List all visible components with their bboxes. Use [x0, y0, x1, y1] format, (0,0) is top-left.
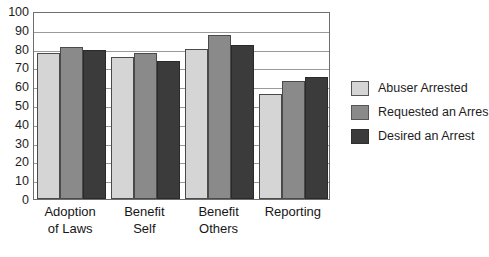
- bar-requested-an-arres-0: [60, 47, 83, 199]
- y-axis-tick-10: 10: [0, 175, 29, 187]
- y-axis-tick-30: 30: [0, 138, 29, 150]
- y-axis-tick-20: 20: [0, 156, 29, 168]
- bar-desired-an-arrest-2: [231, 45, 254, 199]
- bar-desired-an-arrest-0: [83, 50, 106, 199]
- bar-requested-an-arres-2: [208, 35, 231, 199]
- legend-item-2[interactable]: Desired an Arrest: [351, 127, 475, 146]
- bar-group-2: [185, 13, 254, 199]
- bar-group-0: [37, 13, 106, 199]
- x-axis-label-line: Reporting: [243, 203, 343, 220]
- bar-abuser-arrested-0: [37, 53, 60, 199]
- bar-abuser-arrested-1: [111, 57, 134, 199]
- bar-desired-an-arrest-1: [157, 61, 180, 199]
- legend-label-2: Desired an Arrest: [378, 129, 475, 144]
- bar-requested-an-arres-1: [134, 53, 157, 199]
- x-axis-label-line: Others: [169, 220, 269, 237]
- legend-label-1: Requested an Arres: [378, 105, 489, 120]
- bar-abuser-arrested-3: [259, 94, 282, 199]
- plot-area: [33, 12, 330, 200]
- y-axis-tick-50: 50: [0, 100, 29, 112]
- bar-abuser-arrested-2: [185, 49, 208, 199]
- bar-desired-an-arrest-3: [305, 77, 328, 199]
- y-axis-tick-60: 60: [0, 81, 29, 93]
- bar-requested-an-arres-3: [282, 81, 305, 199]
- legend-swatch-icon-2: [351, 129, 369, 144]
- y-axis-tick-80: 80: [0, 44, 29, 56]
- y-axis-tick-70: 70: [0, 62, 29, 74]
- y-axis-tick-90: 90: [0, 25, 29, 37]
- y-axis-tick-100: 100: [0, 6, 29, 18]
- legend-item-0[interactable]: Abuser Arrested: [351, 79, 468, 98]
- x-axis-label-3: Reporting: [243, 203, 343, 220]
- legend-swatch-icon-1: [351, 105, 369, 120]
- bar-group-1: [111, 13, 180, 199]
- bar-group-3: [259, 13, 328, 199]
- x-axis-category-labels: Adoptionof LawsBenefitSelfBenefitOthersR…: [33, 203, 330, 255]
- bars-layer: [34, 13, 329, 199]
- legend-label-0: Abuser Arrested: [378, 81, 468, 96]
- legend-swatch-icon-0: [351, 81, 369, 96]
- y-axis-tick-40: 40: [0, 119, 29, 131]
- legend-item-1[interactable]: Requested an Arres: [351, 103, 489, 122]
